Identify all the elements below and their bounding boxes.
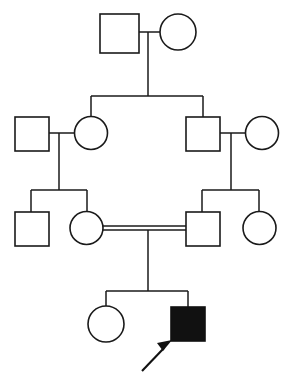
pedigree-chart — [0, 0, 293, 377]
individual-III-4-female-circle[interactable] — [243, 212, 276, 245]
generation-3-group — [15, 212, 276, 292]
individual-III-1-male-square[interactable] — [15, 212, 49, 246]
pedigree-canvas — [0, 0, 293, 377]
sibship-group-gen2 — [91, 96, 203, 117]
individual-IV-1-female-circle[interactable] — [88, 306, 124, 342]
individual-I-1-male-square[interactable] — [100, 14, 139, 53]
individual-II-3-male-square[interactable] — [186, 117, 220, 151]
individual-IV-2-male-square-affected[interactable] — [171, 307, 205, 341]
individual-III-3-male-square[interactable] — [186, 212, 220, 246]
generation-1-group — [100, 14, 196, 96]
proband-arrow-icon — [142, 340, 172, 371]
individual-I-2-female-circle[interactable] — [160, 14, 196, 50]
individual-II-2-female-circle[interactable] — [75, 117, 108, 150]
sibship-group-gen3 — [31, 190, 259, 212]
sibship-group-gen4 — [106, 291, 188, 308]
individual-III-2-female-circle[interactable] — [70, 212, 103, 245]
proband-arrow-head — [157, 340, 172, 351]
generation-2-group — [15, 117, 279, 191]
individual-II-1-male-square[interactable] — [15, 117, 49, 151]
generation-4-group — [88, 306, 205, 342]
individual-II-4-female-circle[interactable] — [246, 117, 279, 150]
proband-arrow-shaft — [142, 348, 164, 371]
